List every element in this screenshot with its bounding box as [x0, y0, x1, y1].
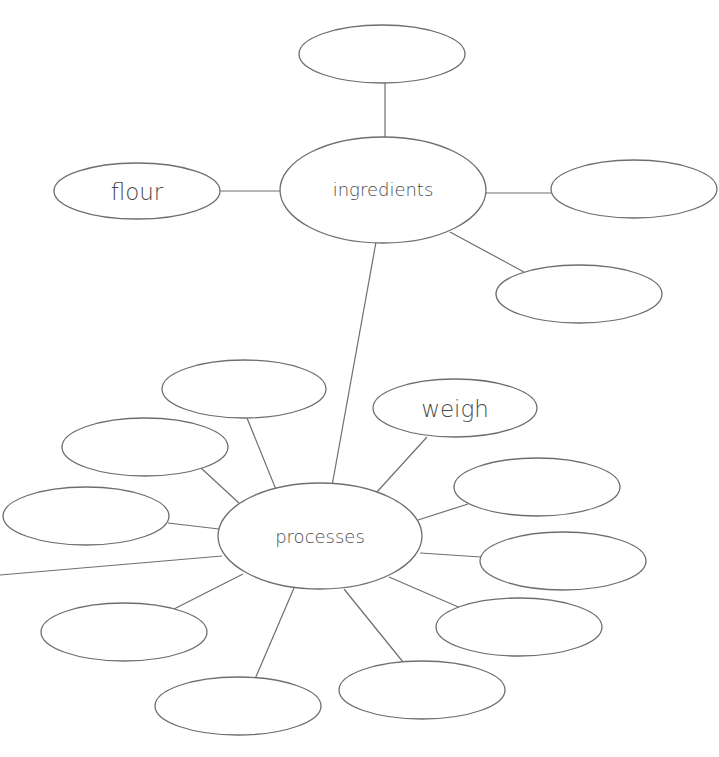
process-node-right3	[436, 598, 602, 656]
ingredient-node-right	[551, 160, 717, 218]
process-node-weigh-label: weigh	[421, 396, 489, 422]
ingredients-hub-label: ingredients	[333, 179, 434, 200]
processes-hub-label: processes	[275, 526, 365, 547]
process-node-bottomright	[339, 661, 505, 719]
edge-ingredients-lowerright	[450, 232, 524, 272]
edge-processes-weigh	[376, 437, 427, 493]
process-node-right1	[454, 458, 620, 516]
process-node-right2	[480, 532, 646, 590]
mind-map-diagram: flour ingredients weigh processes	[0, 0, 719, 757]
edge-processes-right3	[389, 577, 463, 609]
edge-processes-top-left	[247, 418, 277, 492]
process-node-bottom	[155, 677, 321, 735]
ingredients-cluster: flour ingredients	[54, 25, 717, 323]
edge-processes-left1	[168, 523, 219, 529]
edge-processes-lowerleft	[172, 574, 243, 610]
edge-processes-bottom	[255, 588, 294, 679]
process-node-top-left	[162, 360, 326, 418]
edge-processes-right2	[420, 553, 481, 557]
edge-processes-right1	[418, 504, 468, 520]
process-node-lowerleft	[41, 603, 207, 661]
process-node-left2	[62, 418, 228, 476]
process-node-left1	[3, 487, 169, 545]
edge-processes-bottomright	[344, 589, 403, 662]
edge-processes-left2	[201, 468, 240, 504]
ingredient-node-flour-label: flour	[111, 179, 164, 205]
processes-cluster: weigh processes	[3, 360, 646, 735]
edge-ingredients-processes	[330, 242, 376, 497]
ingredient-node-top	[299, 25, 465, 83]
edge-processes-offscreen-left	[0, 556, 222, 575]
ingredient-node-lowerright	[496, 265, 662, 323]
